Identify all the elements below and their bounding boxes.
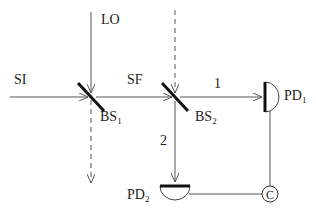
pd1-label: PD1 — [284, 88, 306, 105]
path-1-label: 1 — [214, 76, 221, 91]
pd2-label: PD2 — [127, 187, 149, 204]
photodetector-1 — [265, 82, 279, 112]
photodetector-2 — [160, 186, 190, 200]
homodyne-diagram: C SI LO SF 1 2 BS1 BS2 PD1 PD2 — [0, 0, 316, 212]
correlator-label: C — [266, 188, 274, 202]
bs2-label: BS2 — [195, 109, 217, 126]
signal-field-label: SF — [127, 72, 143, 87]
local-oscillator-label: LO — [101, 12, 120, 27]
signal-in-label: SI — [14, 72, 27, 87]
bs1-label: BS1 — [100, 109, 122, 126]
path-2-label: 2 — [160, 133, 167, 148]
